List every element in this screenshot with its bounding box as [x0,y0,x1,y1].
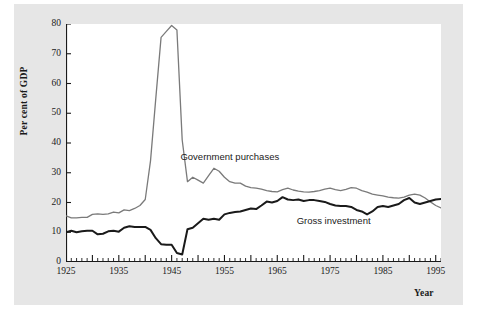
y-tick-label: 0 [39,256,61,266]
x-tick-label: 1935 [99,266,139,276]
y-tick-label: 20 [39,197,61,207]
x-tick-label: 1955 [204,266,244,276]
y-tick-label: 70 [39,48,61,58]
y-axis-title: Per cent of GDP [19,41,29,161]
chart-figure: Per cent of GDP Year 01020304050607080 1… [0,0,477,322]
chart-svg [66,24,441,262]
series-label: Gross investment [297,215,371,226]
x-tick-label: 1945 [152,266,192,276]
y-tick-label: 10 [39,226,61,236]
y-tick-label: 80 [39,18,61,28]
x-tick-label: 1965 [257,266,297,276]
x-tick-label: 1975 [310,266,350,276]
series-label: Government purchases [180,151,279,162]
y-tick-label: 60 [39,78,61,88]
x-tick-label: 1995 [416,266,456,276]
x-axis-title: Year [414,288,434,298]
plot-area [66,24,441,262]
y-tick-label: 40 [39,137,61,147]
x-tick-label: 1985 [363,266,403,276]
y-tick-label: 30 [39,167,61,177]
x-tick-label: 1925 [46,266,86,276]
y-tick-label: 50 [39,107,61,117]
